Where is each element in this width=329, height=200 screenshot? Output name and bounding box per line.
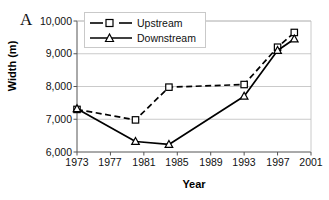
series-line-downstream — [77, 39, 294, 144]
legend-label-upstream: Upstream — [137, 18, 183, 29]
y-tick-label: 9,000 — [28, 48, 72, 58]
y-tick-label: 7,000 — [28, 114, 72, 124]
x-axis-title: Year — [77, 178, 311, 190]
legend-swatch-downstream-solid-triangle-icon — [89, 31, 133, 45]
legend-label-downstream: Downstream — [137, 33, 196, 44]
legend-item-upstream: Upstream — [89, 16, 183, 30]
y-tick-label: 8,000 — [28, 81, 72, 91]
marker-square-upstream — [166, 84, 172, 90]
y-axis-title: Width (m) — [6, 26, 18, 106]
legend-item-downstream: Downstream — [89, 31, 196, 45]
legend-swatch-upstream-dashed-square-icon — [89, 16, 133, 30]
y-axis-tick-labels: 6,000 7,000 8,000 9,000 10,000 — [26, 0, 72, 200]
figure-panel-a: A Width (m) Year 6,000 7,000 8,000 9,000… — [0, 0, 329, 200]
y-tick-label: 10,000 — [28, 16, 72, 26]
marker-square-upstream — [132, 117, 138, 123]
x-tick-label: 2001 — [291, 157, 329, 167]
marker-square-upstream — [241, 81, 247, 87]
legend: Upstream Downstream — [84, 12, 206, 48]
